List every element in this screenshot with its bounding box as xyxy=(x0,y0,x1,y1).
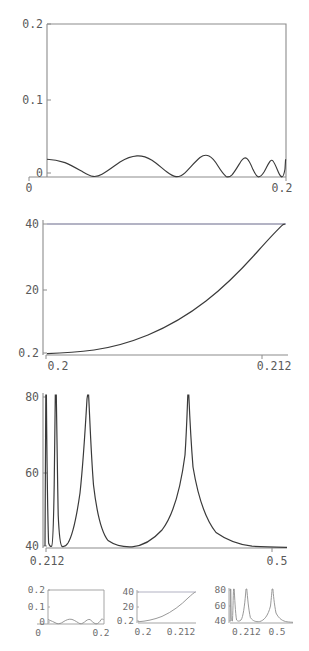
panel-1-ytick-top: 0.2 xyxy=(22,17,43,31)
panel-1-curve xyxy=(47,155,286,177)
thumbnail-2-ytick-top: 40 xyxy=(123,586,135,597)
thumbnail-1-ytick-top: 0.2 xyxy=(28,584,45,595)
panel-1-svg: 0.2 0.1 0 0 0.2 xyxy=(0,0,309,195)
thumbnail-2-ytick-mid: 20 xyxy=(123,601,135,612)
thumbnail-1: 0.2 0.1 0 0 0.2 xyxy=(28,584,110,638)
thumbnail-3-ytick-mid: 60 xyxy=(215,600,227,611)
chart-panel-1: 0.2 0.1 0 0 0.2 xyxy=(0,0,309,195)
panel-1-xtick-right: 0.2 xyxy=(272,181,293,195)
chart-panel-3: 80 60 40 0.212 0.5 xyxy=(0,375,309,570)
thumbnail-3-ytick-bottom: 40 xyxy=(215,615,227,626)
panel-2-ytick-mid: 20 xyxy=(25,283,39,297)
panel-3-xtick-right: 0.5 xyxy=(267,554,288,568)
panel-4-svg: 0.2 0.1 0 0 0.2 40 20 0.2 0.2 0.212 80 xyxy=(0,570,309,651)
panel-1-xtick-left: 0 xyxy=(26,181,33,195)
panel-1-ytick-bottom: 0 xyxy=(36,166,43,180)
thumbnail-1-xtick-right: 0.2 xyxy=(92,627,109,638)
thumbnail-3-ytick-top: 80 xyxy=(215,584,227,595)
panel-1-x-axis xyxy=(29,177,286,181)
panel-2-svg: 40 20 0.2 0.2 0.212 xyxy=(0,195,309,375)
panel-3-ytick-bottom: 40 xyxy=(25,539,39,553)
thumbnail-2-xtick-right: 0.212 xyxy=(167,626,196,637)
panel-3-svg: 80 60 40 0.212 0.5 xyxy=(0,375,309,570)
panel-2-labels: 40 20 0.2 0.2 0.212 xyxy=(18,217,291,373)
panel-3-xtick-left: 0.212 xyxy=(30,554,65,568)
panel-1-ytick-mid: 0.1 xyxy=(22,93,43,107)
thumbnail-3-xtick-right: 0.5 xyxy=(268,626,285,637)
thumbnail-2-xtick-left: 0.2 xyxy=(134,626,151,637)
chart-panel-2: 40 20 0.2 0.2 0.212 xyxy=(0,195,309,375)
panel-2-ytick-top: 40 xyxy=(25,217,39,231)
panel-1-y-ticks xyxy=(47,24,51,173)
panel-2-xtick-left: 0.2 xyxy=(48,359,69,373)
panel-3-ytick-top: 80 xyxy=(25,390,39,404)
chart-panel-4-thumbnail-row: 0.2 0.1 0 0 0.2 40 20 0.2 0.2 0.212 80 xyxy=(0,570,309,651)
panel-1-frame xyxy=(47,24,286,177)
panel-3-x-axis xyxy=(46,548,287,552)
thumbnail-2-ytick-bottom: 0.2 xyxy=(117,615,134,626)
thumbnail-2: 40 20 0.2 0.2 0.212 xyxy=(117,586,196,637)
thumbnail-3: 80 60 40 0.212 0.5 xyxy=(215,584,293,637)
thumbnail-1-ytick-mid: 0.1 xyxy=(28,601,45,612)
panel-2-y-axis xyxy=(43,220,47,355)
thumbnail-1-xtick-left: 0 xyxy=(35,627,41,638)
thumbnail-3-xtick-left: 0.212 xyxy=(232,626,261,637)
panel-2-x-axis xyxy=(46,355,288,359)
panel-2-ytick-bottom: 0.2 xyxy=(18,346,39,360)
panel-3-ytick-mid: 60 xyxy=(25,466,39,480)
panel-2-curve xyxy=(47,224,285,354)
panel-2-xtick-right: 0.212 xyxy=(257,359,292,373)
thumbnail-1-ytick-bottom: 0 xyxy=(39,616,45,627)
panel-3-curve xyxy=(45,395,287,547)
panel-3-labels: 80 60 40 0.212 0.5 xyxy=(25,390,287,568)
